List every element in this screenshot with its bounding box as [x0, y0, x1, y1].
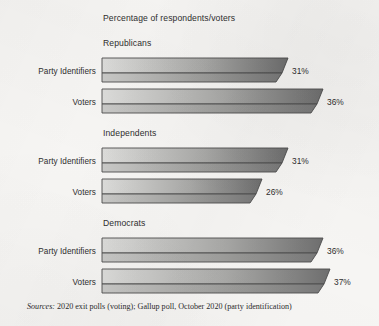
bar-value-democrats-party-identifiers: 36% [327, 246, 344, 256]
source-note-text: 2020 exit polls (voting); Gallup poll, O… [55, 302, 292, 311]
bar-independents-party-identifiers[interactable] [102, 148, 312, 174]
bar-value-republicans-party-identifiers: 31% [292, 66, 309, 76]
category-label-voters-republicans: Voters [72, 98, 96, 107]
group-title-independents: Independents [103, 128, 156, 138]
category-label-party-identifiers-republicans: Party Identifiers [38, 67, 96, 76]
bar-republicans-voters[interactable] [102, 89, 342, 115]
source-note-lead: Sources: [27, 302, 55, 311]
category-label-party-identifiers-independents: Party Identifiers [38, 157, 96, 166]
bar-democrats-party-identifiers[interactable] [102, 238, 342, 264]
bar-value-independents-voters: 26% [266, 187, 283, 197]
bar-value-democrats-voters: 37% [334, 277, 351, 287]
bar-republicans-party-identifiers[interactable] [102, 58, 312, 84]
source-note: Sources: 2020 exit polls (voting); Gallu… [27, 302, 292, 311]
group-title-republicans: Republicans [103, 38, 151, 48]
chart-title: Percentage of respondents/voters [103, 13, 235, 23]
bar-independents-voters[interactable] [102, 179, 292, 205]
category-label-party-identifiers-democrats: Party Identifiers [38, 247, 96, 256]
bar-chart: Percentage of respondents/voters Republi… [0, 0, 379, 326]
category-label-voters-democrats: Voters [72, 278, 96, 287]
bar-value-independents-party-identifiers: 31% [292, 156, 309, 166]
category-label-voters-independents: Voters [72, 188, 96, 197]
group-title-democrats: Democrats [103, 218, 145, 228]
bar-value-republicans-voters: 36% [327, 97, 344, 107]
bar-democrats-voters[interactable] [102, 269, 352, 295]
